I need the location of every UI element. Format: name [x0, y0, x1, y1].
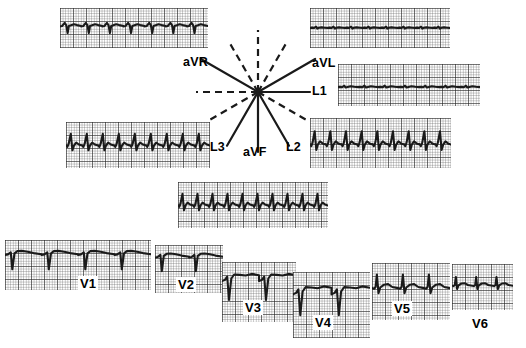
axis-label-avr: aVR — [183, 56, 208, 69]
axis-ray-positive-avr — [201, 59, 258, 92]
lead-label-v1: V1 — [78, 276, 98, 291]
ecg-strip-v6 — [452, 264, 513, 310]
axis-ray-negative-avl — [206, 92, 258, 122]
ecg-strip-l2 — [310, 118, 451, 168]
ecg-strip-l1 — [338, 64, 480, 106]
axis-ray-negative-l3 — [258, 42, 287, 92]
ecg-strip-avf — [178, 182, 328, 228]
axis-label-l2: L2 — [286, 141, 301, 154]
lead-label-v4: V4 — [313, 315, 333, 330]
ecg-strip-l3 — [66, 122, 210, 168]
axis-ray-positive-l2 — [258, 92, 289, 146]
axis-ray-positive-l3 — [227, 92, 258, 146]
axis-ray-negative-avr — [258, 92, 310, 122]
ecg-figure: aVRaVLL1L2aVFL3V1V2V3V4V5V6 — [0, 0, 526, 348]
lead-label-v3: V3 — [243, 300, 263, 315]
axis-ray-negative-l2 — [229, 42, 258, 92]
axis-label-l1: L1 — [312, 85, 327, 98]
axis-label-avf: aVF — [243, 146, 267, 159]
lead-label-v2: V2 — [176, 277, 196, 292]
lead-label-v5: V5 — [392, 301, 412, 316]
ecg-strip-avr — [60, 8, 208, 48]
axis-label-l3: L3 — [210, 141, 225, 154]
axis-ray-positive-avl — [258, 59, 315, 92]
ecg-strip-avl — [310, 8, 450, 48]
lead-label-v6: V6 — [470, 316, 490, 331]
axis-label-avl: aVL — [312, 57, 336, 70]
